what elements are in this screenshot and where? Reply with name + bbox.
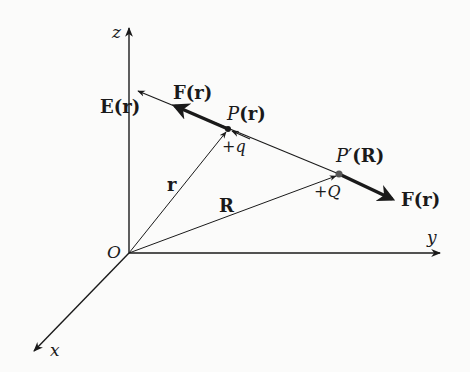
point-P-label: P(r) (226, 103, 266, 124)
point-P-prime (336, 171, 343, 178)
vector-r-label: r (167, 174, 177, 195)
point-P-prime-label: P′(R) (335, 145, 384, 166)
point-P (225, 126, 231, 132)
x-axis-label: x (50, 340, 60, 360)
field-E-label: E(r) (100, 96, 140, 117)
charge-q-label: +q (222, 137, 246, 156)
force-on-Q-arrow (339, 174, 392, 199)
origin-label: O (107, 242, 121, 262)
vector-R-label: R (219, 195, 235, 216)
x-axis (34, 253, 129, 351)
force-on-Q-label: F(r) (401, 189, 440, 210)
force-on-q-arrow (175, 106, 228, 129)
y-axis-label: y (426, 227, 437, 247)
z-axis-label: z (111, 22, 122, 42)
coulomb-diagram: z y x O P(r) +q P′(R) +Q r R E(r) F(r) F… (0, 0, 470, 372)
force-on-q-label: F(r) (173, 82, 212, 103)
charge-Q-label: +Q (314, 182, 341, 201)
svg-text:P(r): P(r) (226, 103, 266, 124)
svg-text:P′(R): P′(R) (335, 145, 384, 166)
